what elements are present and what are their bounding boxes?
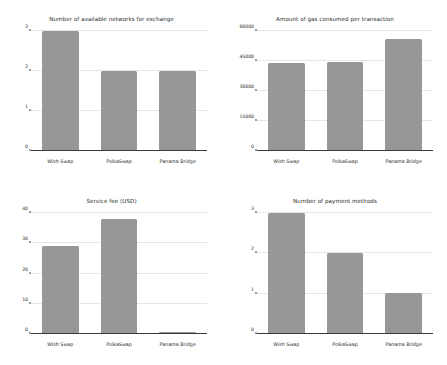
bar-slot	[257, 31, 316, 150]
x-axis-label: Panama Bridge	[374, 342, 433, 347]
bar-slot	[31, 213, 90, 333]
x-axis-line	[257, 150, 433, 151]
y-tick-label: 45000	[239, 54, 254, 59]
x-axis-label: PolkaSwap	[316, 342, 375, 347]
bar	[101, 71, 138, 150]
y-tick-label: 30	[22, 236, 28, 241]
bar-slot	[374, 213, 433, 333]
bar-slot	[374, 31, 433, 150]
y-tick-label: 0	[25, 327, 28, 332]
x-axis-labels: Wish SwapPolkaSwapPanama Bridge	[257, 342, 433, 347]
y-tick-label: 3	[251, 206, 254, 211]
y-tick-label: 2	[251, 246, 254, 251]
bar	[42, 246, 79, 333]
bar	[101, 219, 138, 333]
x-axis-label: Panama Bridge	[148, 159, 207, 164]
plot-area: 015000300004500060000	[257, 31, 433, 151]
x-axis-labels: Wish SwapPolkaSwapPanama Bridge	[31, 342, 207, 347]
bar-slot	[148, 213, 207, 333]
panel-gas: Amount of gas consumed per transaction 0…	[223, 0, 447, 182]
bar-series	[31, 31, 207, 150]
y-tick-label: 0	[25, 144, 28, 149]
plot-area: 0123	[257, 213, 433, 334]
x-axis-labels: Wish SwapPolkaSwapPanama Bridge	[257, 159, 433, 164]
bar	[385, 39, 422, 150]
y-tick-label: 0	[251, 327, 254, 332]
x-axis-line	[31, 150, 207, 151]
y-tick-label: 1	[25, 104, 28, 109]
x-axis-label: Panama Bridge	[148, 342, 207, 347]
panel-title: Number of payment methods	[223, 198, 447, 204]
y-tick-label: 2	[25, 64, 28, 69]
plot-area: 0123	[31, 31, 207, 151]
bar-slot	[148, 31, 207, 150]
bar-slot	[316, 213, 375, 333]
y-tick-label: 1	[251, 286, 254, 291]
bar-series	[257, 213, 433, 333]
panel-service-fee: Service fee (USD) 010203040 Wish SwapPol…	[0, 182, 223, 365]
panel-networks: Number of available networks for exchang…	[0, 0, 223, 182]
panel-title: Service fee (USD)	[0, 198, 223, 204]
panel-payment-methods: Number of payment methods 0123 Wish Swap…	[223, 182, 447, 365]
x-axis-line	[31, 333, 207, 334]
y-tick-label: 40	[22, 206, 28, 211]
x-axis-label: Panama Bridge	[374, 159, 433, 164]
bar	[327, 253, 364, 333]
bar	[385, 293, 422, 333]
bar-slot	[90, 31, 149, 150]
x-axis-labels: Wish SwapPolkaSwapPanama Bridge	[31, 159, 207, 164]
x-axis-label: Wish Swap	[31, 342, 90, 347]
bar	[327, 62, 364, 150]
x-axis-line	[257, 333, 433, 334]
panel-title: Amount of gas consumed per transaction	[223, 16, 447, 22]
bar	[268, 213, 305, 333]
y-tick-label: 3	[25, 24, 28, 29]
bar	[42, 31, 79, 150]
x-axis-label: Wish Swap	[257, 342, 316, 347]
bar-series	[257, 31, 433, 150]
y-tick-label: 30000	[239, 84, 254, 89]
y-tick-label: 10	[22, 296, 28, 301]
x-axis-label: PolkaSwap	[316, 159, 375, 164]
y-tick-label: 0	[251, 144, 254, 149]
plot-area: 010203040	[31, 213, 207, 334]
x-axis-label: PolkaSwap	[90, 159, 149, 164]
y-tick-label: 15000	[239, 114, 254, 119]
y-tick-label: 20	[22, 266, 28, 271]
panel-title: Number of available networks for exchang…	[0, 16, 223, 22]
y-tick-label: 60000	[239, 24, 254, 29]
bar-slot	[316, 31, 375, 150]
bar-slot	[90, 213, 149, 333]
chart-grid: Number of available networks for exchang…	[0, 0, 447, 365]
x-axis-label: Wish Swap	[257, 159, 316, 164]
bar-slot	[257, 213, 316, 333]
x-axis-label: PolkaSwap	[90, 342, 149, 347]
x-axis-label: Wish Swap	[31, 159, 90, 164]
bar	[268, 63, 305, 150]
bar-slot	[31, 31, 90, 150]
bar	[159, 71, 196, 150]
bar-series	[31, 213, 207, 333]
